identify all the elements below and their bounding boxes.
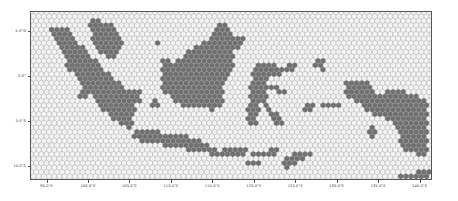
y-axis-tick-label: 5.0°N [15, 29, 26, 33]
x-axis-tick-mark [47, 180, 48, 183]
x-axis-tick-mark [254, 180, 255, 183]
x-axis-tick-label: 95.0°E [40, 184, 53, 188]
y-axis-tick-label: 5.0°S [16, 119, 26, 123]
x-axis-tick-label: 110.0°E [163, 184, 178, 188]
x-axis-tick-label: 120.0°E [246, 184, 261, 188]
x-axis-tick-mark [420, 180, 421, 183]
x-axis-tick-mark [88, 180, 89, 183]
x-axis-tick-mark [129, 180, 130, 183]
y-axis-tick-label: 0.0° [18, 74, 26, 78]
x-axis-tick-mark [212, 180, 213, 183]
x-axis-tick-label: 105.0°E [122, 184, 137, 188]
x-axis-tick-mark [295, 180, 296, 183]
x-axis-tick-label: 115.0°E [205, 184, 220, 188]
hexbin-map-figure: 5.0°N0.0°5.0°S10.0°S 95.0°E100.0°E105.0°… [0, 0, 458, 201]
x-axis-tick-mark [378, 180, 379, 183]
y-axis-tick-mark [28, 76, 31, 77]
y-axis-tick-mark [28, 166, 31, 167]
hexagon-tile-grid [31, 12, 431, 179]
x-axis-tick-label: 135.0°E [371, 184, 386, 188]
plot-area [30, 11, 432, 180]
y-axis-tick-label: 10.0°S [13, 164, 26, 168]
y-axis-tick-mark [28, 121, 31, 122]
x-axis-tick-label: 130.0°E [329, 184, 344, 188]
x-axis-tick-mark [171, 180, 172, 183]
x-axis-tick-label: 125.0°E [288, 184, 303, 188]
x-axis-tick-label: 100.0°E [80, 184, 95, 188]
y-axis-tick-mark [28, 31, 31, 32]
x-axis-tick-label: 140.0°E [412, 184, 427, 188]
x-axis-tick-mark [337, 180, 338, 183]
